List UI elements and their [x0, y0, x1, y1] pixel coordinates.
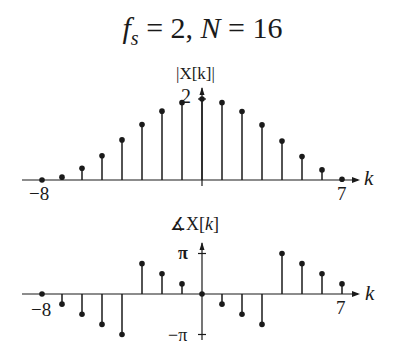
- stem-marker: [279, 138, 285, 144]
- phase-ytick-pi: π: [178, 243, 188, 263]
- x-axis-arrow-icon: [352, 177, 360, 183]
- stem-marker: [319, 271, 325, 277]
- y-axis-arrow-icon: [200, 87, 205, 95]
- stem-marker: [79, 311, 85, 317]
- stem-marker: [199, 96, 205, 102]
- stem-marker: [159, 108, 165, 114]
- stem-marker: [339, 281, 345, 287]
- magnitude-plot: [22, 87, 360, 186]
- stem-marker: [139, 261, 145, 267]
- stem-marker: [299, 154, 305, 160]
- stem-marker: [179, 281, 185, 287]
- stem-marker: [319, 167, 325, 173]
- stem-marker: [239, 311, 245, 317]
- stem-marker: [219, 100, 225, 106]
- phase-ylabel: ∡X[k]: [170, 214, 219, 234]
- stem-marker: [39, 177, 45, 183]
- phase-xtick-min: −8: [31, 300, 51, 320]
- stem-marker: [239, 109, 245, 115]
- stem-marker: [279, 251, 285, 257]
- stem-marker: [39, 291, 45, 297]
- phase-xlabel: k: [365, 283, 374, 303]
- stem-marker: [79, 165, 85, 171]
- stem-marker: [339, 176, 345, 182]
- magnitude-xtick-min: −8: [29, 184, 49, 204]
- magnitude-xtick-max: 7: [337, 184, 347, 204]
- stem-marker: [119, 332, 125, 338]
- stem-marker: [139, 122, 145, 128]
- stem-marker: [299, 261, 305, 267]
- magnitude-ytick-2: 2: [181, 86, 191, 106]
- stem-marker: [259, 322, 265, 328]
- stem-marker: [219, 301, 225, 307]
- magnitude-xlabel: k: [364, 168, 373, 188]
- stem-marker: [259, 122, 265, 128]
- phase-xtick-max: 7: [336, 298, 346, 318]
- stem-marker: [59, 174, 65, 180]
- magnitude-ylabel: |X[k]|: [176, 64, 215, 84]
- phase-ytick-neg-pi: −π: [168, 325, 187, 345]
- x-axis-arrow-icon: [352, 291, 360, 297]
- stem-marker: [99, 322, 105, 328]
- y-axis-arrow-icon: [200, 242, 205, 250]
- stem-marker: [59, 301, 65, 307]
- stem-marker: [119, 137, 125, 143]
- stem-marker: [99, 153, 105, 159]
- stem-marker: [199, 291, 205, 297]
- phase-plot: [22, 242, 360, 340]
- stem-marker: [159, 271, 165, 277]
